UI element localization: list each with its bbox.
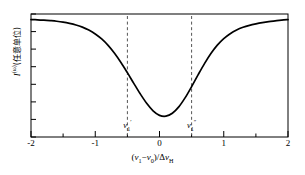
annotation-label-nu-1-prime: ν1′ — [110, 119, 144, 132]
x-tick-label-0: -2 — [20, 138, 42, 148]
plot-frame — [31, 14, 288, 137]
figure-container: I(ω)(任意单位) (ν1−ν0)/ΔνH -2 -1 0 1 2 ν1′ ν… — [0, 0, 305, 175]
y-axis-label: I(ω)(任意单位) — [11, 0, 22, 107]
plot-svg — [0, 0, 305, 175]
x-axis-label: (ν1−ν0)/ΔνH — [0, 152, 305, 164]
x-tick-label-3: 1 — [213, 138, 235, 148]
x-tick-label-1: -1 — [84, 138, 106, 148]
x-tick-label-2: 0 — [149, 138, 171, 148]
y-axis-label-units: (任意单位) — [13, 27, 22, 65]
x-tick-label-4: 2 — [277, 138, 299, 148]
annotation-label-nu-1-double-prime: ν1″ — [175, 119, 209, 132]
